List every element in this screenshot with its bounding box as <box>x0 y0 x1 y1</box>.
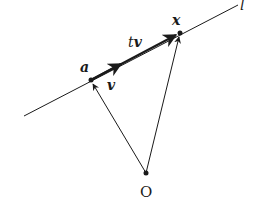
point-O <box>144 171 149 176</box>
vector-O-to-x <box>146 37 179 173</box>
point-x <box>178 31 183 36</box>
label-x: x <box>171 12 181 28</box>
label-O: O <box>140 183 152 201</box>
label-a: a <box>80 59 89 75</box>
vector-line-diagram: a x O l v tv <box>0 0 260 221</box>
vector-v <box>91 64 121 80</box>
vector-O-to-a <box>93 84 146 173</box>
line-l <box>24 5 238 116</box>
label-tv-v: v <box>134 34 143 50</box>
label-v: v <box>107 77 116 93</box>
label-tv: tv <box>128 34 143 50</box>
point-a <box>89 78 94 83</box>
label-l: l <box>240 0 244 13</box>
